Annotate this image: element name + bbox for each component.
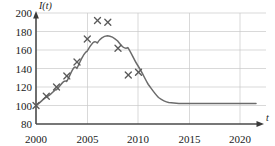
chart-container: 200 180 160 140 120 100 80 2000 2005 201… <box>0 0 275 146</box>
x-tick-label-2015: 2015 <box>179 133 202 145</box>
scatter-line-chart: 200 180 160 140 120 100 80 2000 2005 201… <box>0 0 275 146</box>
x-tick-label-2005: 2005 <box>77 133 100 145</box>
y-axis-title: I(t) <box>38 0 52 12</box>
y-tick-label-100: 100 <box>16 100 33 112</box>
y-tick-label-140: 140 <box>16 63 33 75</box>
x-tick-label-2000: 2000 <box>25 133 48 145</box>
y-tick-label-180: 180 <box>16 26 33 38</box>
y-tick-label-160: 160 <box>16 44 33 56</box>
y-tick-label-200: 200 <box>16 7 33 19</box>
x-tick-label-2010: 2010 <box>127 133 150 145</box>
x-tick-label-2020: 2020 <box>229 133 252 145</box>
y-tick-label-80: 80 <box>21 118 33 130</box>
x-axis-title: t <box>266 112 269 123</box>
y-tick-label-120: 120 <box>16 81 33 93</box>
